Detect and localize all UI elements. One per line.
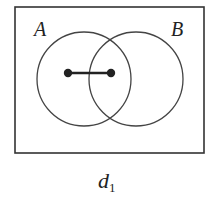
diagram-caption: d1 (98, 168, 116, 194)
venn-diagram: A B d1 (0, 0, 217, 201)
point-1 (64, 69, 72, 77)
set-a-label: A (34, 18, 46, 41)
set-a-circle (37, 32, 131, 126)
caption-main: d (98, 168, 109, 193)
set-b-circle (89, 32, 183, 126)
caption-subscript: 1 (109, 180, 116, 195)
set-b-label: B (171, 18, 183, 41)
point-2 (107, 69, 115, 77)
